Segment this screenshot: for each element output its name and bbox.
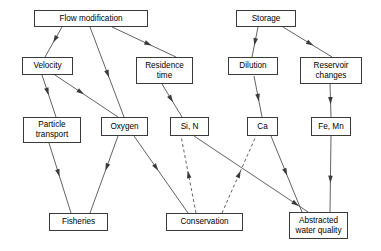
edge-line bbox=[49, 143, 71, 213]
edge-line bbox=[194, 136, 308, 212]
edge-arrowhead bbox=[328, 176, 333, 184]
edge-fe-mn-to-abstracted-water-quality bbox=[328, 136, 333, 212]
edge-line bbox=[42, 75, 56, 117]
node-fisheries[interactable]: Fisheries bbox=[49, 213, 108, 231]
edge-oxygen-to-fisheries bbox=[90, 136, 118, 213]
edge-si-n-to-abstracted-water-quality bbox=[194, 136, 308, 212]
edge-flow-to-oxygen bbox=[90, 27, 124, 117]
edge-arrowhead bbox=[144, 40, 152, 45]
node-fe_mn[interactable]: Fe, Mn bbox=[311, 117, 351, 136]
edge-particle-transport-to-fisheries bbox=[49, 143, 71, 213]
edge-velocity-to-particle-transport bbox=[42, 75, 56, 117]
edge-line bbox=[330, 136, 331, 212]
node-residence_time[interactable]: Residence time bbox=[136, 57, 193, 84]
edge-reservoir-changes-to-fe-mn bbox=[328, 84, 333, 117]
edge-arrowhead bbox=[44, 87, 49, 95]
diagram-canvas: Flow modificationStorageVelocityResidenc… bbox=[0, 0, 381, 251]
edge-arrowhead bbox=[167, 95, 173, 103]
edge-arrowhead bbox=[236, 171, 241, 179]
edge-storage-to-dilution bbox=[252, 27, 258, 57]
node-oxygen[interactable]: Oxygen bbox=[101, 117, 148, 136]
edge-line bbox=[90, 136, 118, 213]
edge-conservation-to-ca bbox=[222, 136, 256, 213]
edge-arrowhead bbox=[306, 40, 314, 46]
edge-flow-to-velocity bbox=[45, 27, 62, 57]
edge-line bbox=[55, 75, 118, 117]
edge-storage-to-reservoir-changes bbox=[283, 27, 332, 57]
edge-residence-time-to-si-n bbox=[162, 84, 182, 117]
edge-conservation-to-si-n bbox=[181, 136, 196, 213]
edge-arrowhead bbox=[105, 163, 110, 171]
edge-arrowhead bbox=[152, 163, 158, 170]
edge-arrowhead bbox=[282, 168, 287, 176]
edge-arrowhead bbox=[76, 88, 84, 94]
edge-dilution-to-ca bbox=[254, 76, 262, 117]
node-dilution[interactable]: Dilution bbox=[228, 57, 278, 75]
node-ca[interactable]: Ca bbox=[247, 117, 278, 136]
edge-line bbox=[112, 27, 176, 57]
node-abstracted_water_quality[interactable]: Abstracted water quality bbox=[289, 212, 348, 239]
edge-flow-to-residence-time bbox=[112, 27, 176, 57]
edge-arrowhead bbox=[55, 169, 59, 177]
edge-line bbox=[134, 136, 188, 213]
node-particle_transport[interactable]: Particle transport bbox=[23, 117, 81, 143]
edge-arrowhead bbox=[253, 38, 258, 46]
edge-arrowhead bbox=[328, 97, 333, 105]
node-velocity[interactable]: Velocity bbox=[22, 57, 73, 75]
node-storage[interactable]: Storage bbox=[236, 10, 296, 27]
edge-ca-to-abstracted-water-quality bbox=[271, 136, 302, 212]
node-reservoir_changes[interactable]: Reservoir changes bbox=[300, 57, 362, 84]
node-si_n[interactable]: Si, N bbox=[170, 117, 209, 136]
node-flow_modification[interactable]: Flow modification bbox=[34, 10, 148, 27]
node-conservation[interactable]: Conservation bbox=[166, 213, 243, 231]
edge-arrowhead bbox=[104, 70, 109, 78]
edge-velocity-to-oxygen bbox=[55, 75, 118, 117]
edge-arrowhead bbox=[53, 35, 59, 43]
edge-oxygen-to-conservation bbox=[134, 136, 188, 213]
